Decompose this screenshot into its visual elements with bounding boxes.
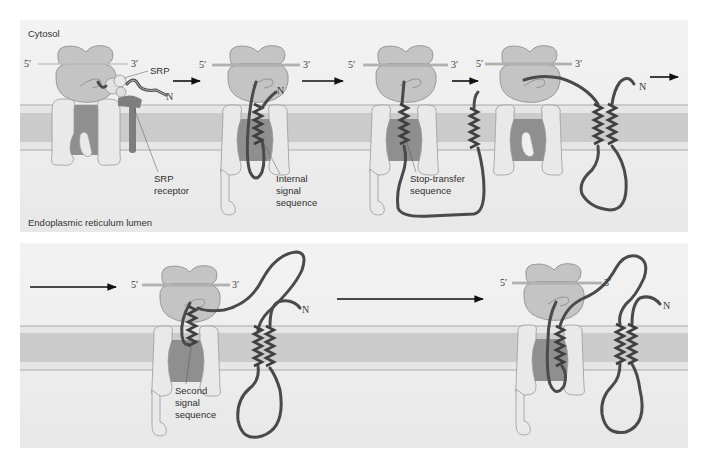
ribosome-icon: [500, 46, 560, 103]
three-prime-label: 3′: [575, 58, 582, 69]
er-membrane-bottom: [20, 326, 688, 370]
three-prime-label: 3′: [451, 59, 458, 70]
srp-receptor-label-line1: SRP: [154, 173, 174, 184]
five-prime-label: 5′: [199, 59, 206, 70]
five-prime-label: 5′: [500, 277, 507, 288]
stop-transfer-label-line1: Stop-transfer: [410, 173, 465, 184]
three-prime-label: 3′: [604, 277, 611, 288]
second-signal-label-line3: sequence: [175, 409, 216, 420]
cytosol-label: Cytosol: [28, 28, 60, 39]
bottom-panel: 5′ 3′ N Second signal sequence 5′ 3′ N: [20, 243, 688, 448]
internal-signal-label-line3: sequence: [276, 197, 317, 208]
srp-label: SRP: [150, 65, 170, 76]
srp-receptor-label-line2: receptor: [154, 185, 189, 196]
n-terminus-label: N: [639, 81, 646, 92]
membrane-protein-insertion-diagram: Cytosol Endoplasmic reticulum lumen: [0, 0, 705, 457]
second-signal-label-line2: signal: [175, 397, 200, 408]
three-prime-label: 3′: [303, 59, 310, 70]
five-prime-label: 5′: [24, 58, 31, 69]
top-panel: Cytosol Endoplasmic reticulum lumen: [20, 20, 688, 232]
three-prime-label: 3′: [131, 58, 138, 69]
n-terminus-label: N: [166, 91, 173, 102]
n-terminus-label: N: [277, 85, 284, 96]
n-terminus-label: N: [302, 304, 309, 315]
internal-signal-label-line1: Internal: [276, 173, 308, 184]
lumen-label: Endoplasmic reticulum lumen: [28, 217, 152, 228]
internal-signal-label-line2: signal: [276, 185, 301, 196]
second-signal-label-line1: Second: [175, 385, 207, 396]
n-terminus-label: N: [663, 300, 670, 311]
srp-receptor: [129, 105, 136, 153]
three-prime-label: 3′: [232, 279, 239, 290]
five-prime-label: 5′: [348, 59, 355, 70]
five-prime-label: 5′: [476, 58, 483, 69]
stop-transfer-label-line2: sequence: [410, 185, 451, 196]
ribosome-icon: [524, 264, 584, 321]
ribosome-icon: [376, 46, 436, 103]
five-prime-label: 5′: [131, 279, 138, 290]
ribosome-icon: [56, 46, 116, 103]
